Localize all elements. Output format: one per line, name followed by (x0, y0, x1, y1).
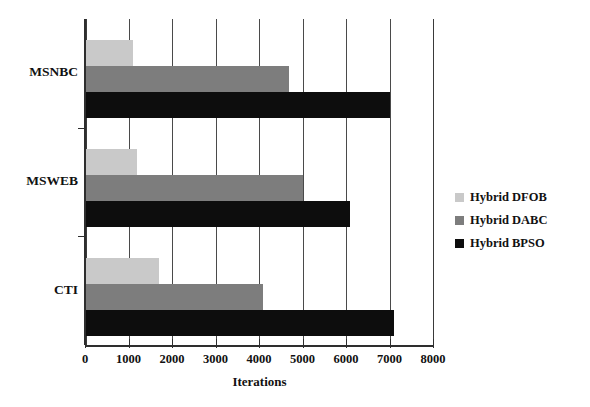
x-axis-tick-label-0: 0 (82, 352, 88, 367)
y-category-label-msweb: MSWEB (0, 173, 90, 189)
category-band (85, 236, 433, 345)
plot-area (85, 19, 433, 345)
x-axis-tick-label-4000: 4000 (247, 352, 272, 367)
x-axis-tick-3000 (216, 339, 217, 348)
bar-msnbc-hybrid-dfob (85, 40, 133, 66)
x-axis-tick-2000 (172, 339, 173, 348)
x-axis-tick-label-8000: 8000 (421, 352, 446, 367)
bar-msweb-hybrid-bpso (85, 201, 350, 227)
legend-item-hybrid-dabc: Hybrid DABC (455, 209, 585, 232)
x-axis-tick-label-5000: 5000 (290, 352, 315, 367)
x-axis-tick-6000 (346, 339, 347, 348)
x-axis-tick-1000 (129, 339, 130, 348)
y-axis-tick (78, 236, 84, 237)
legend-swatch-icon (455, 216, 464, 225)
legend: Hybrid DFOBHybrid DABCHybrid BPSO (455, 186, 585, 255)
x-axis-tick-8000 (433, 339, 434, 348)
y-axis-tick (78, 128, 84, 129)
gridline-8000 (433, 19, 434, 345)
category-band (85, 128, 433, 237)
x-axis-tick-4000 (259, 339, 260, 348)
x-axis-tick-label-3000: 3000 (203, 352, 228, 367)
bar-msweb-hybrid-dabc (85, 175, 303, 201)
legend-label: Hybrid BPSO (470, 236, 545, 251)
bar-cti-hybrid-bpso (85, 310, 394, 336)
legend-swatch-icon (455, 239, 464, 248)
y-category-label-cti: CTI (0, 282, 90, 298)
bar-msweb-hybrid-dfob (85, 149, 137, 175)
legend-label: Hybrid DFOB (470, 190, 547, 205)
category-band (85, 19, 433, 128)
legend-item-hybrid-dfob: Hybrid DFOB (455, 186, 585, 209)
legend-swatch-icon (455, 193, 464, 202)
y-category-label-msnbc: MSNBC (0, 64, 90, 80)
legend-item-hybrid-bpso: Hybrid BPSO (455, 232, 585, 255)
x-axis-tick-label-6000: 6000 (334, 352, 359, 367)
x-axis-tick-label-1000: 1000 (116, 352, 141, 367)
clipped-caption-artifact (18, 0, 438, 5)
bar-cti-hybrid-dabc (85, 284, 263, 310)
x-axis-title: Iterations (85, 374, 434, 390)
bar-cti-hybrid-dfob (85, 258, 159, 284)
legend-label: Hybrid DABC (470, 213, 547, 228)
bar-msnbc-hybrid-bpso (85, 92, 390, 118)
bar-chart-figure: 010002000300040005000600070008000 Iterat… (0, 0, 590, 407)
x-axis-tick-0 (85, 339, 86, 348)
bar-msnbc-hybrid-dabc (85, 66, 289, 92)
x-axis-tick-5000 (303, 339, 304, 348)
x-axis-tick-label-2000: 2000 (160, 352, 185, 367)
x-axis-tick-7000 (390, 339, 391, 348)
x-axis-tick-label-7000: 7000 (377, 352, 402, 367)
